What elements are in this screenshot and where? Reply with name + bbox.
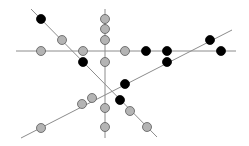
gray-node	[79, 47, 88, 56]
descending-diagonal-line	[31, 9, 157, 137]
gray-node	[58, 36, 67, 45]
line-node-diagram	[0, 0, 249, 146]
diagram-canvas	[0, 0, 249, 146]
gray-node	[126, 107, 135, 116]
gray-node	[101, 123, 110, 132]
gray-node	[101, 36, 110, 45]
black-node	[217, 47, 226, 56]
gray-node	[37, 124, 46, 133]
black-node	[163, 58, 172, 67]
black-node	[142, 47, 151, 56]
gray-node	[121, 47, 130, 56]
lines-layer	[16, 9, 236, 138]
black-node	[163, 47, 172, 56]
gray-node	[37, 47, 46, 56]
nodes-layer	[37, 15, 226, 133]
gray-node	[101, 25, 110, 34]
black-node	[121, 80, 130, 89]
black-node	[79, 58, 88, 67]
gray-node	[143, 123, 152, 132]
black-node	[37, 15, 46, 24]
gray-node	[101, 104, 110, 113]
gray-node	[101, 58, 110, 67]
gray-node	[78, 100, 87, 109]
black-node	[116, 96, 125, 105]
gray-node	[101, 15, 110, 24]
black-node	[206, 36, 215, 45]
gray-node	[88, 94, 97, 103]
